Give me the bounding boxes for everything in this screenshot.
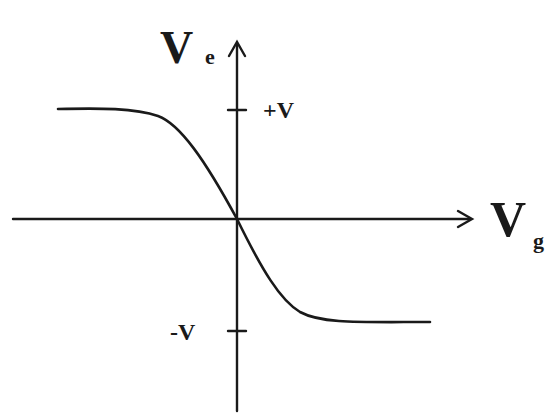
tick-label-positive: +V bbox=[263, 97, 295, 123]
x-axis bbox=[13, 211, 472, 227]
x-axis-label: V bbox=[490, 191, 526, 247]
y-axis bbox=[229, 42, 245, 411]
tick-label-negative: -V bbox=[170, 319, 196, 345]
transfer-curve bbox=[58, 109, 430, 323]
transfer-curve-diagram: V e V g +V -V bbox=[0, 0, 552, 417]
y-axis-subscript: e bbox=[205, 44, 215, 69]
y-axis-label: V bbox=[160, 22, 193, 73]
x-axis-subscript: g bbox=[533, 228, 544, 253]
